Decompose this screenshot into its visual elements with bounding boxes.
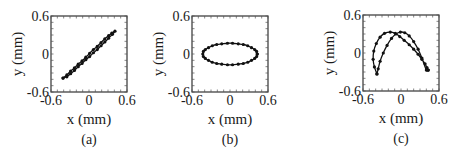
data-point: [220, 63, 223, 66]
data-point: [425, 69, 428, 72]
y-axis-label: y (mm): [321, 31, 338, 76]
data-point: [256, 52, 259, 55]
data-point: [377, 67, 380, 70]
data-point: [220, 42, 223, 45]
data-point: [111, 33, 114, 36]
data-point: [96, 48, 99, 51]
data-point: [88, 55, 91, 58]
data-point: [80, 62, 83, 65]
x-tick-label: 0: [398, 92, 405, 107]
data-point: [92, 51, 95, 54]
x-tick-label: 0.6: [430, 92, 448, 107]
data-point: [372, 58, 375, 61]
data-point: [237, 63, 240, 66]
data-point: [103, 37, 106, 40]
y-tick-label: 0: [354, 46, 361, 61]
y-tick-label: 0: [42, 47, 49, 62]
x-tick-label: 0: [227, 93, 234, 108]
y-tick-label: 0.6: [32, 9, 50, 24]
data-point: [207, 46, 210, 49]
data-point: [99, 41, 102, 44]
data-point: [65, 75, 68, 78]
series-line: [373, 32, 428, 74]
data-point: [103, 40, 106, 43]
data-point: [73, 69, 76, 72]
data-point: [99, 44, 102, 47]
data-point: [211, 44, 214, 47]
data-point: [242, 43, 245, 46]
data-point: [379, 60, 382, 63]
data-point: [382, 51, 385, 54]
data-point: [88, 52, 91, 55]
data-point: [107, 37, 110, 40]
data-point: [69, 72, 72, 75]
data-point: [96, 45, 99, 48]
x-tick-label: 0: [86, 93, 93, 108]
data-point: [250, 59, 253, 62]
data-point: [389, 30, 392, 33]
data-point: [390, 37, 393, 40]
data-point: [379, 36, 382, 39]
data-point: [423, 62, 426, 65]
y-tick-label: 0.6: [173, 9, 191, 24]
panel-caption: (b): [222, 132, 239, 148]
data-point: [215, 62, 218, 65]
data-point: [383, 32, 386, 35]
y-tick-label: 0.6: [344, 8, 362, 23]
data-point: [246, 44, 249, 47]
data-point: [237, 42, 240, 45]
data-point: [403, 31, 406, 34]
data-point: [398, 35, 401, 38]
figure: -0.600.60.60-0.6x (mm)y (mm)(a)-0.600.60…: [0, 0, 456, 160]
data-point: [385, 44, 388, 47]
y-tick-label: 0: [183, 47, 190, 62]
data-point: [399, 30, 402, 33]
data-point: [231, 63, 234, 66]
plot-frame: [363, 15, 439, 91]
panel-c: -0.600.60.60-0.6x (mm)y (mm)(c): [321, 8, 448, 147]
data-point: [204, 57, 207, 60]
data-point: [246, 61, 249, 64]
data-point: [226, 42, 229, 45]
data-point: [92, 48, 95, 51]
x-tick-label: 0.6: [259, 93, 277, 108]
y-tick-label: -0.6: [339, 84, 361, 99]
data-point: [408, 43, 411, 46]
x-axis-label: x (mm): [67, 111, 112, 128]
data-point: [113, 30, 116, 33]
data-point: [394, 32, 397, 35]
data-point: [211, 61, 214, 64]
y-axis-label: y (mm): [9, 32, 26, 77]
data-point: [373, 65, 376, 68]
data-point: [420, 56, 423, 59]
y-tick-label: -0.6: [168, 85, 190, 100]
data-point: [417, 48, 420, 51]
data-point: [231, 42, 234, 45]
data-point: [226, 63, 229, 66]
data-point: [375, 42, 378, 45]
panel-caption: (a): [81, 132, 97, 148]
data-point: [242, 62, 245, 65]
data-point: [412, 40, 415, 43]
x-axis-label: x (mm): [379, 110, 424, 127]
data-point: [207, 59, 210, 62]
panel-a: -0.600.60.60-0.6x (mm)y (mm)(a): [9, 9, 136, 148]
panel-b: -0.600.60.60-0.6x (mm)y (mm)(b): [150, 9, 277, 148]
data-point: [250, 46, 253, 49]
data-point: [253, 48, 256, 51]
data-point: [408, 34, 411, 37]
data-point: [372, 50, 375, 53]
x-axis-label: x (mm): [208, 111, 253, 128]
panel-caption: (c): [393, 131, 409, 147]
data-point: [215, 43, 218, 46]
data-point: [375, 72, 378, 75]
data-point: [412, 48, 415, 51]
data-point: [417, 53, 420, 56]
y-axis-label: y (mm): [150, 32, 167, 77]
y-tick-label: -0.6: [27, 85, 49, 100]
data-point: [77, 65, 80, 68]
data-point: [84, 58, 87, 61]
data-point: [61, 76, 64, 79]
x-tick-label: 0.6: [118, 93, 136, 108]
data-point: [403, 39, 406, 42]
